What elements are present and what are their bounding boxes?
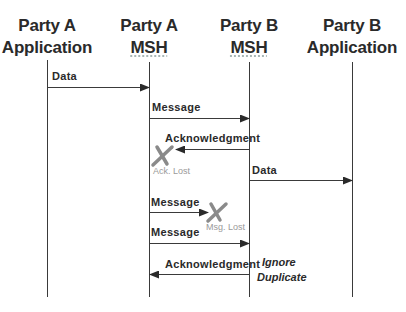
lost-label: Msg. Lost <box>206 222 245 232</box>
note-line2: Duplicate <box>257 270 307 285</box>
message-label: Acknowledgment <box>165 132 260 144</box>
message-label: Message <box>151 196 200 208</box>
message-label: Message <box>151 226 200 238</box>
message-label: Data <box>52 70 77 82</box>
lost-label: Ack. Lost <box>153 166 190 176</box>
message-label: Data <box>252 164 277 176</box>
ignore-duplicate-note: Ignore Duplicate <box>257 255 307 285</box>
message-label: Message <box>152 101 201 113</box>
lost-x-icon <box>153 147 172 165</box>
note-line1: Ignore <box>257 255 307 270</box>
lost-x-icon <box>208 204 226 221</box>
message-label: Acknowledgment <box>165 258 260 270</box>
